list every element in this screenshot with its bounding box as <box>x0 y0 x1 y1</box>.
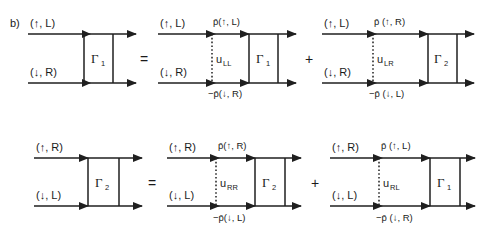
interaction-symbol: u <box>220 177 226 189</box>
label-in-top: (↑, L) <box>324 17 349 29</box>
diagram-gamma2-lhs: (↑, R) (↓, L) Γ 2 <box>34 141 143 210</box>
label-propagator-top: p̄ (↑, L) <box>381 140 411 151</box>
interaction-symbol: u <box>216 53 222 65</box>
interaction-subscript: RR <box>227 183 238 192</box>
arrowhead-top-vertex1 <box>373 154 383 162</box>
label-in-bottom: (↓, R) <box>160 66 187 78</box>
vertex-gamma-subscript: 2 <box>105 183 109 192</box>
diagram-term-ulr: (↑, L) (↓, R) p̄ (↑, R) −p̄ (↓, L) u LR … <box>322 16 475 99</box>
arrowhead-top-end <box>133 154 143 162</box>
vertex-gamma-subscript: 1 <box>447 183 451 192</box>
interaction-subscript: LL <box>223 59 231 68</box>
vertex-gamma-subscript: 1 <box>101 59 105 68</box>
label-propagator-bottom: −p̄(↓, L) <box>213 212 245 223</box>
interaction-symbol: u <box>383 177 389 189</box>
label-in-bottom: (↓, R) <box>30 66 57 78</box>
operator-equals-row2: = <box>148 175 156 191</box>
vertex-gamma-symbol: Γ <box>437 175 445 190</box>
arrowhead-bottom-end <box>133 202 143 210</box>
label-in-bottom: (↓, L) <box>332 189 357 201</box>
arrowhead-bottom-vertex1 <box>210 202 220 210</box>
vertex-gamma-subscript: 2 <box>444 59 448 68</box>
diagram-canvas: b) (↑, L) (↓, R) Γ 1 = (↑, L) (↓, R) p̄(… <box>0 0 490 242</box>
operator-plus-row2: + <box>311 175 319 191</box>
vertex-gamma-symbol: Γ <box>256 51 264 66</box>
arrowhead-bottom-end <box>465 79 475 87</box>
arrowhead-top-end <box>465 30 475 38</box>
arrowhead-bottom-vertex1 <box>373 202 383 210</box>
vertex-gamma-symbol: Γ <box>434 51 442 66</box>
vertex-gamma-symbol: Γ <box>262 175 270 190</box>
vertex-gamma-symbol: Γ <box>91 51 99 66</box>
operator-equals-row1: = <box>140 51 148 67</box>
label-propagator-top: p̄(↑, R) <box>218 140 247 151</box>
arrowhead-top-end <box>466 154 476 162</box>
arrowhead-bottom-end <box>292 202 302 210</box>
interaction-symbol: u <box>377 53 383 65</box>
label-propagator-top: p̄(↑, L) <box>213 16 240 27</box>
label-in-bottom: (↓, L) <box>169 189 194 201</box>
arrowhead-top-vertex1 <box>210 154 220 162</box>
label-in-bottom: (↓, L) <box>36 189 61 201</box>
bethe-salpeter-diagram-figure: b) (↑, L) (↓, R) Γ 1 = (↑, L) (↓, R) p̄(… <box>0 0 490 242</box>
arrowhead-bottom-vertex1 <box>367 79 377 87</box>
diagram-gamma1-lhs: (↑, L) (↓, R) Γ 1 <box>28 17 137 87</box>
arrowhead-bottom-end <box>287 79 297 87</box>
arrowhead-top-vertex1 <box>367 30 377 38</box>
vertex-gamma-subscript: 1 <box>266 59 270 68</box>
arrowhead-bottom-end <box>466 202 476 210</box>
arrowhead-top-vertex1 <box>206 30 216 38</box>
label-propagator-bottom: −p̄ (↓, R) <box>376 212 413 223</box>
arrowhead-top-end <box>292 154 302 162</box>
label-propagator-bottom: −p̄(↓, R) <box>208 88 242 99</box>
interaction-subscript: LR <box>384 59 394 68</box>
vertex-gamma-subscript: 2 <box>272 183 276 192</box>
label-in-top: (↑, R) <box>169 141 196 153</box>
operator-plus-row1: + <box>305 51 313 67</box>
label-in-top: (↑, R) <box>332 141 359 153</box>
vertex-gamma-symbol: Γ <box>95 175 103 190</box>
label-in-top: (↑, R) <box>36 141 63 153</box>
label-in-top: (↑, L) <box>160 17 185 29</box>
interaction-subscript: RL <box>390 183 400 192</box>
arrowhead-bottom-end <box>127 79 137 87</box>
diagram-term-ull: (↑, L) (↓, R) p̄(↑, L) −p̄(↓, R) u LL Γ … <box>158 16 297 99</box>
label-in-bottom: (↓, R) <box>324 66 351 78</box>
arrowhead-bottom-vertex1 <box>206 79 216 87</box>
diagram-term-url: (↑, R) (↓, L) p̄ (↑, L) −p̄ (↓, R) u RL … <box>330 140 476 223</box>
label-propagator-top: p̄ (↑, R) <box>374 16 405 27</box>
arrowhead-top-end <box>287 30 297 38</box>
label-in-top: (↑, L) <box>30 17 55 29</box>
panel-label: b) <box>10 17 20 29</box>
diagram-term-urr: (↑, R) (↓, L) p̄(↑, R) −p̄(↓, L) u RR Γ … <box>167 140 302 223</box>
label-propagator-bottom: −p̄ (↓, L) <box>369 88 404 99</box>
arrowhead-top-end <box>127 30 137 38</box>
